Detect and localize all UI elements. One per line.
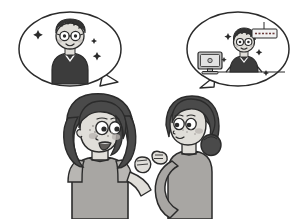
woman-left-pupil-right (114, 126, 119, 131)
boy-blush-right (77, 39, 82, 42)
boy-seated-blush-left (235, 45, 239, 48)
boy-seated-eye-left (239, 41, 242, 44)
boy-seated-eye-right (247, 41, 250, 44)
boy-eye-left (63, 34, 66, 37)
woman-left-blush-left (89, 133, 97, 139)
woman-right-hair-bun (201, 135, 221, 156)
illustration-canvas (0, 0, 306, 219)
boy-blush-left (57, 39, 62, 42)
woman-right-pupil-left (175, 123, 180, 128)
monitor-base (202, 72, 218, 74)
boy-shirt (52, 53, 88, 84)
woman-right-blush (195, 128, 203, 134)
boy-eye-right (74, 34, 77, 37)
thought-bubble-left (19, 12, 121, 86)
screen-content-icon (208, 58, 212, 62)
woman-left-blush-right (112, 134, 120, 140)
boy-seated-blush-right (250, 45, 254, 48)
woman-right-hand (152, 151, 167, 164)
woman-left-pupil-left (101, 126, 106, 131)
woman-right-pupil-right (187, 123, 192, 128)
